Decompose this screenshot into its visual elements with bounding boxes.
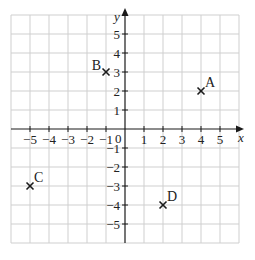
y-tick-label: −5: [106, 217, 120, 232]
y-tick-label: −1: [106, 141, 120, 156]
point-c: C: [27, 170, 44, 190]
coordinate-grid: x y 0 −5−4−3−2−11234554321−1−2−3−4−5 ABC…: [0, 0, 255, 260]
y-tick-label: −4: [106, 198, 120, 213]
y-tick-label: 4: [114, 46, 121, 61]
point-label: B: [92, 58, 101, 73]
x-axis-label: x: [237, 130, 244, 145]
point-b: B: [92, 58, 110, 76]
x-tick-label: 2: [160, 132, 167, 147]
point-label: A: [205, 75, 216, 90]
y-tick-label: 1: [114, 103, 121, 118]
x-tick-label: −3: [61, 132, 75, 147]
y-tick-label: 3: [114, 65, 121, 80]
point-a: A: [198, 75, 217, 95]
y-tick-label: 5: [114, 27, 121, 42]
x-tick-label: −2: [80, 132, 94, 147]
x-tick-label: 1: [141, 132, 148, 147]
y-axis-arrow-icon: [122, 8, 129, 16]
y-tick-label: −2: [106, 160, 120, 175]
y-tick-label: −3: [106, 179, 120, 194]
x-tick-label: 4: [198, 132, 205, 147]
point-label: D: [167, 189, 177, 204]
point-label: C: [34, 170, 43, 185]
x-tick-label: −5: [23, 132, 37, 147]
y-axis-label: y: [112, 9, 120, 24]
x-tick-label: 3: [179, 132, 186, 147]
y-tick-label: 2: [114, 84, 121, 99]
x-tick-label: −4: [42, 132, 56, 147]
x-tick-label: 5: [217, 132, 224, 147]
point-d: D: [160, 189, 178, 209]
